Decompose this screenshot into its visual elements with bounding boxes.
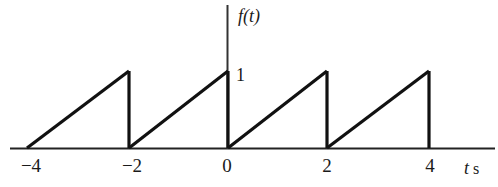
x-axis-unit: s: [473, 160, 479, 177]
ramp-segment-two: [327, 71, 429, 148]
x-tick-label-2: 2: [322, 156, 332, 175]
ramp-segment-minus2: [129, 71, 228, 148]
x-axis-title: ts: [464, 159, 479, 177]
x-tick-label-0: 0: [222, 156, 232, 175]
sawtooth-curve: [27, 71, 429, 148]
y-value-label-one: 1: [236, 66, 245, 84]
sawtooth-waveform-figure: f(t) 1 −4 −2 0 2 4 ts: [0, 0, 498, 187]
ramp-segment-minus4: [27, 71, 129, 148]
x-tick-label-minus-4: −4: [21, 156, 41, 175]
waveform-plot-area: [0, 0, 498, 187]
x-axis-variable: t: [464, 158, 469, 178]
y-axis-title: f(t): [238, 7, 260, 25]
x-tick-label-4: 4: [425, 156, 435, 175]
x-tick-label-minus-2: −2: [122, 156, 142, 175]
